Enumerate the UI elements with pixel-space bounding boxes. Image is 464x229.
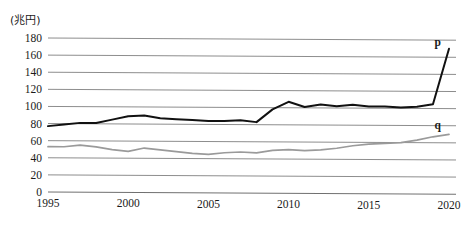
x-axis-tick-label: 2015 [357, 199, 380, 211]
gridline [48, 55, 456, 57]
series-label-p: p [435, 36, 441, 49]
x-axis-tick-label: 2010 [277, 198, 300, 210]
gridline [48, 72, 456, 74]
gridline [48, 89, 456, 91]
y-axis-tick-label: 80 [31, 118, 43, 130]
line-chart-plot: 020406080100120140160180 199520002005201… [0, 0, 464, 229]
gridlines [48, 38, 456, 194]
y-axis-tick-label: 160 [25, 49, 43, 61]
gridline [48, 124, 456, 126]
y-axis-tick-label: 60 [31, 135, 43, 147]
x-axis-tick-label: 2000 [117, 197, 140, 209]
series-line-p [48, 49, 449, 126]
y-axis-tick-label: 20 [31, 169, 43, 181]
gridline [48, 38, 456, 40]
y-axis-tick-label: 100 [25, 100, 43, 112]
y-axis-tick-label: 180 [25, 32, 43, 44]
series-line-q [48, 134, 449, 154]
series-label-q: q [435, 119, 442, 132]
x-axis-line [48, 192, 456, 194]
y-axis-tick-labels: 020406080100120140160180 [25, 32, 43, 198]
y-axis-tick-label: 40 [31, 152, 43, 164]
chart-container: (兆円) 020406080100120140160180 1995200020… [0, 0, 464, 229]
data-series [48, 49, 449, 155]
x-axis-tick-label: 1995 [37, 197, 60, 209]
x-axis-tick-label: 2020 [438, 199, 461, 211]
x-axis-tick-labels: 199520002005201020152020 [37, 197, 461, 211]
x-axis-tick-label: 2005 [197, 198, 220, 210]
gridline [48, 158, 456, 160]
y-axis-tick-label: 140 [25, 66, 43, 78]
gridline [48, 175, 456, 177]
y-axis-tick-label: 120 [25, 83, 43, 95]
